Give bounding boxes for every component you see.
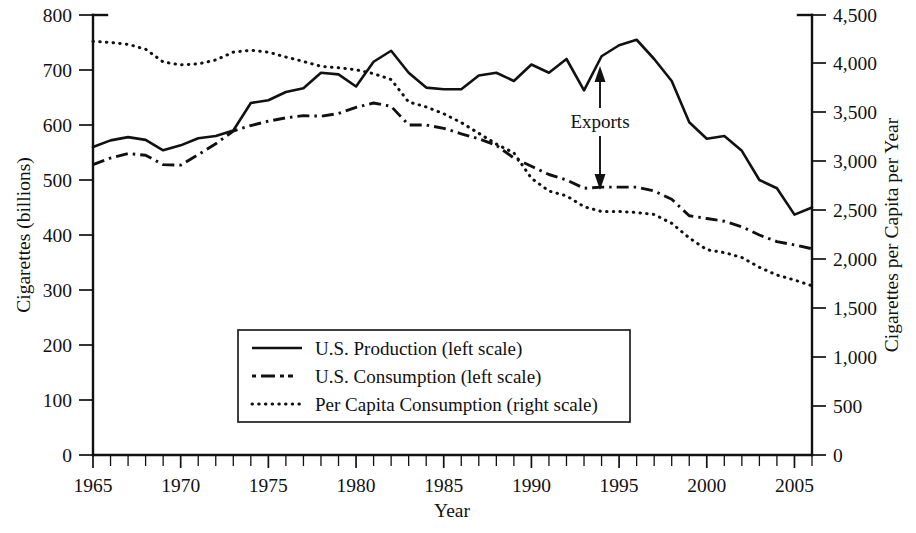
chart-legend[interactable]: U.S. Production (left scale) U.S. Consum… — [238, 330, 630, 422]
y-tick-label-100: 100 — [43, 390, 72, 411]
series-line-us-production — [93, 40, 812, 215]
exports-annotation: Exports — [570, 66, 629, 190]
x-tick-label-2000: 2000 — [687, 475, 726, 496]
y-axis-right-labels: 0 500 1,000 1,500 2,000 2,500 3,000 3,50… — [833, 5, 877, 466]
y-tick-label-300: 300 — [43, 280, 72, 301]
y-axis-left-labels: 0 100 200 300 400 500 600 700 800 — [43, 5, 72, 466]
legend-label-consumption: U.S. Consumption (left scale) — [315, 366, 541, 388]
y-axis-right-title: Cigarettes per Capita per Year — [881, 117, 902, 352]
y2-tick-label-0: 0 — [833, 445, 843, 466]
chart-figure: 0 100 200 300 400 500 600 700 800 0 500 — [0, 0, 916, 533]
y-tick-label-400: 400 — [43, 225, 72, 246]
y-tick-label-800: 800 — [43, 5, 72, 26]
x-tick-label-1990: 1990 — [512, 475, 551, 496]
y-axis-left-title: Cigarettes (billions) — [13, 157, 35, 312]
series-line-us-consumption — [93, 103, 812, 249]
y2-tick-label-2000: 2,000 — [833, 249, 877, 270]
x-tick-label-1985: 1985 — [424, 475, 463, 496]
x-tick-label-1995: 1995 — [600, 475, 639, 496]
series-group — [93, 40, 812, 286]
y2-tick-label-500: 500 — [833, 396, 862, 417]
series-line-per-capita-consumption — [93, 41, 812, 285]
y2-tick-label-1500: 1,500 — [833, 298, 877, 319]
x-axis-title: Year — [434, 500, 470, 521]
y-tick-label-600: 600 — [43, 115, 72, 136]
x-tick-label-1980: 1980 — [337, 475, 376, 496]
y-tick-label-0: 0 — [62, 445, 72, 466]
x-tick-label-2005: 2005 — [775, 475, 814, 496]
y2-tick-label-4500: 4,500 — [833, 5, 877, 26]
x-tick-label-1970: 1970 — [161, 475, 200, 496]
cigarette-trends-chart: 0 100 200 300 400 500 600 700 800 0 500 — [0, 0, 916, 533]
y2-tick-label-3500: 3,500 — [833, 102, 877, 123]
x-tick-label-1965: 1965 — [74, 475, 113, 496]
y2-tick-label-3000: 3,000 — [833, 151, 877, 172]
y-axis-left-ticks — [79, 15, 93, 455]
y-tick-label-500: 500 — [43, 170, 72, 191]
exports-label: Exports — [570, 111, 629, 132]
y2-tick-label-1000: 1,000 — [833, 347, 877, 368]
y2-tick-label-2500: 2,500 — [833, 200, 877, 221]
y-tick-label-700: 700 — [43, 60, 72, 81]
y-axis-right-ticks — [812, 15, 826, 455]
legend-label-production: U.S. Production (left scale) — [315, 338, 522, 360]
legend-label-percapita: Per Capita Consumption (right scale) — [315, 394, 598, 416]
x-tick-label-1975: 1975 — [249, 475, 288, 496]
y-tick-label-200: 200 — [43, 335, 72, 356]
y2-tick-label-4000: 4,000 — [833, 53, 877, 74]
x-axis-labels: 196519701975198019851990199520002005 — [74, 475, 814, 496]
x-axis-ticks — [93, 455, 812, 468]
